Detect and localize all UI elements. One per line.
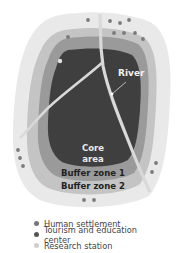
settlement-marker: [150, 170, 154, 174]
settlement-marker: [21, 164, 25, 168]
settlement-marker: [112, 31, 116, 35]
settlement-marker: [133, 31, 137, 35]
research-station-marker: [58, 59, 62, 63]
settlement-marker-icon: [34, 221, 39, 226]
settlement-marker: [92, 198, 96, 202]
settlement-marker: [18, 156, 22, 160]
research-marker-icon: [34, 243, 39, 248]
legend-item-tourism: Tourism and education center: [30, 229, 162, 240]
core-area-label: Core: [78, 143, 108, 153]
settlement-marker: [118, 21, 122, 25]
settlement-marker: [82, 198, 86, 202]
river-label: River: [118, 68, 144, 78]
settlement-marker: [127, 18, 131, 22]
settlement-marker: [108, 19, 112, 23]
settlement-marker: [141, 37, 145, 41]
settlement-marker: [154, 161, 158, 165]
tourism-marker-icon: [34, 232, 39, 237]
settlement-marker: [86, 18, 90, 22]
legend-label: Research station: [44, 241, 112, 251]
settlement-marker: [16, 148, 20, 152]
settlement-marker: [122, 31, 126, 35]
buffer-zone-1-label: Buffer zone 1: [55, 168, 131, 178]
river-leader-dot: [111, 93, 114, 96]
core-area-label-2: area: [78, 154, 108, 164]
legend: Human settlement Tourism and education c…: [30, 218, 162, 251]
buffer-zone-2-label: Buffer zone 2: [55, 181, 131, 191]
settlement-marker: [66, 35, 70, 39]
